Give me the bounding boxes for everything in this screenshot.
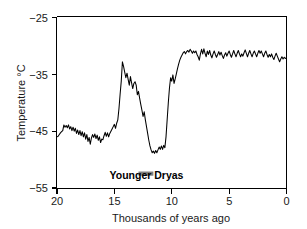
x-axis-tick-labels: 20 15 10 5 0 — [51, 195, 290, 207]
y-axis-title: Temperature °C — [15, 64, 27, 141]
x-axis-title: Thousands of years ago — [112, 212, 230, 224]
x-tick-label: 15 — [108, 195, 120, 207]
y-tick-label: −25 — [29, 12, 48, 24]
x-tick-label: 5 — [226, 195, 232, 207]
y-axis-tick-labels: −25 −35 −45 −55 — [29, 12, 48, 195]
data-series-group — [57, 49, 287, 154]
x-tick-label: 20 — [51, 195, 63, 207]
y-tick-label: −55 — [29, 182, 48, 194]
y-tick-label: −35 — [29, 69, 48, 81]
x-tick-label: 0 — [283, 195, 289, 207]
temperature-line-chart: −25 −35 −45 −55 20 15 10 5 0 Temperature… — [0, 0, 307, 229]
x-tick-label: 10 — [166, 195, 178, 207]
y-tick-label: −45 — [29, 125, 48, 137]
plot-frame — [57, 17, 288, 189]
chart-figure: −25 −35 −45 −55 20 15 10 5 0 Temperature… — [0, 0, 307, 229]
x-axis-ticks — [57, 189, 287, 194]
temperature-line — [57, 49, 287, 154]
younger-dryas-label: Younger Dryas — [110, 169, 184, 181]
